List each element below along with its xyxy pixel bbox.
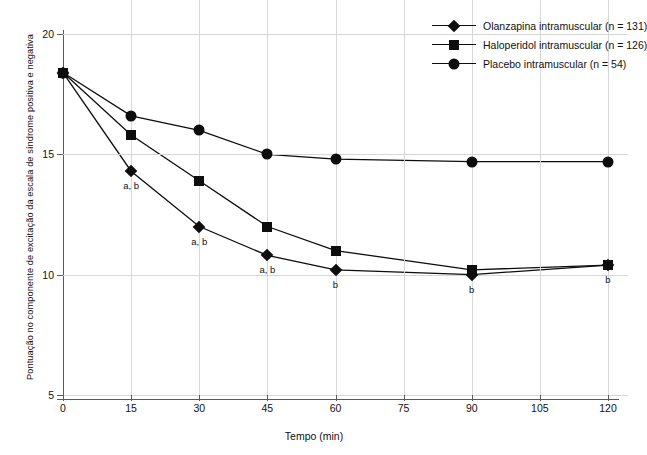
y-axis-tick-label: 20 — [42, 28, 54, 40]
x-axis-tick — [199, 395, 200, 401]
significance-annotation: a, b — [191, 236, 207, 247]
legend-label: Placebo intramuscular (n = 54) — [483, 58, 626, 70]
data-point-square — [262, 222, 272, 232]
data-point-square — [603, 260, 613, 270]
significance-annotation: b — [605, 274, 610, 285]
gridline-vertical — [131, 0, 132, 399]
x-axis-tick-label: 0 — [60, 402, 66, 414]
x-axis-tick-label: 15 — [125, 402, 137, 414]
x-axis-line — [57, 399, 619, 400]
gridline-vertical — [267, 0, 268, 399]
chart-legend: Olanzapina intramuscular (n = 131)Halope… — [432, 16, 647, 73]
gridline-horizontal — [63, 395, 628, 396]
legend-label: Haloperidol intramuscular (n = 126) — [483, 39, 647, 51]
x-axis-tick-label: 30 — [193, 402, 205, 414]
x-axis-title: Tempo (min) — [0, 430, 628, 442]
data-point-circle — [194, 125, 205, 136]
data-point-circle — [330, 154, 341, 165]
x-axis-tick — [63, 395, 64, 401]
plot-area: 51015200153045607590105120a, ba, ba, bbb… — [63, 34, 608, 395]
data-point-square — [194, 176, 204, 186]
legend-marker-diamond — [432, 19, 476, 33]
data-point-circle — [466, 156, 477, 167]
y-axis-tick-label: 15 — [42, 148, 54, 160]
x-axis-tick — [267, 395, 268, 401]
y-axis-tick-label: 10 — [42, 269, 54, 281]
gridline-vertical — [336, 0, 337, 399]
data-point-square — [467, 265, 477, 275]
gridline-horizontal — [63, 154, 628, 155]
significance-annotation: b — [469, 284, 474, 295]
x-axis-tick — [131, 395, 132, 401]
data-point-square — [126, 130, 136, 140]
data-point-square — [331, 246, 341, 256]
y-axis-tick — [57, 34, 63, 35]
x-axis-tick-label: 60 — [330, 402, 342, 414]
y-axis-tick-label: 5 — [48, 389, 54, 401]
legend-marker-circle — [432, 57, 476, 71]
x-axis-tick — [540, 395, 541, 401]
x-axis-tick — [608, 395, 609, 401]
legend-label: Olanzapina intramuscular (n = 131) — [483, 20, 647, 32]
data-point-circle — [262, 149, 273, 160]
gridline-vertical — [199, 0, 200, 399]
y-axis-title: Pontuação no componente de excitação da … — [25, 7, 35, 407]
x-axis-tick — [404, 395, 405, 401]
x-axis-tick-label: 120 — [599, 402, 617, 414]
legend-marker-square — [432, 38, 476, 52]
x-axis-tick-label: 105 — [531, 402, 549, 414]
x-axis-tick-label: 45 — [262, 402, 274, 414]
x-axis-tick-label: 75 — [398, 402, 410, 414]
significance-annotation: b — [333, 279, 338, 290]
legend-item: Olanzapina intramuscular (n = 131) — [432, 16, 647, 35]
y-axis-tick — [57, 275, 63, 276]
significance-annotation: a, b — [259, 264, 275, 275]
significance-annotation: a, b — [123, 180, 139, 191]
gridline-vertical — [404, 0, 405, 399]
x-axis-tick — [472, 395, 473, 401]
data-point-circle — [126, 110, 137, 121]
y-axis-tick — [57, 154, 63, 155]
x-axis-tick-label: 90 — [466, 402, 478, 414]
data-point-circle — [58, 67, 69, 78]
x-axis-tick — [336, 395, 337, 401]
legend-item: Placebo intramuscular (n = 54) — [432, 54, 647, 73]
data-point-circle — [603, 156, 614, 167]
gridline-horizontal — [63, 275, 628, 276]
legend-item: Haloperidol intramuscular (n = 126) — [432, 35, 647, 54]
